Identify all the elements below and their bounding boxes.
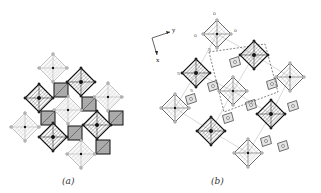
panel-b-caption: (b) [211,176,224,186]
shaded-polyhedron [278,141,289,152]
shaded-polyhedron [68,126,82,140]
shaded-polyhedron [230,57,241,68]
octahedron [38,122,68,152]
atom-label: Ti [207,48,211,52]
octahedron [82,110,112,140]
atom-label: O [234,29,237,33]
panel-b-diagram: OOOTiTiTi [152,12,305,168]
x-axis-label: x [156,56,159,63]
y-axis-label: y [172,26,175,33]
atom-label: Ti [176,72,180,76]
octahedron [24,83,54,113]
axis-indicator [152,31,170,55]
shaded-polyhedron [261,136,272,147]
shaded-polyhedron [54,83,68,97]
panel-a-diagram [10,53,123,169]
octahedron [93,82,123,112]
shaded-polyhedron [246,100,257,111]
shaded-polyhedron [186,94,197,105]
atom-label: O [194,34,197,38]
octahedron [66,67,96,97]
octahedron [53,95,83,125]
shaded-polyhedron [208,81,219,92]
shaded-polyhedron [223,113,234,124]
octahedron [38,53,68,83]
shaded-polyhedron [288,101,299,112]
figure-canvas: OOOTiTiTi [0,0,321,193]
shaded-polyhedron [82,97,96,111]
octahedron [66,139,96,169]
atom-label: O [213,12,216,16]
shaded-polyhedron [109,111,123,125]
atom-label: Ti [189,89,193,93]
panel-a-caption: (a) [62,176,74,186]
shaded-polyhedron [96,140,110,154]
octahedron [10,112,40,142]
